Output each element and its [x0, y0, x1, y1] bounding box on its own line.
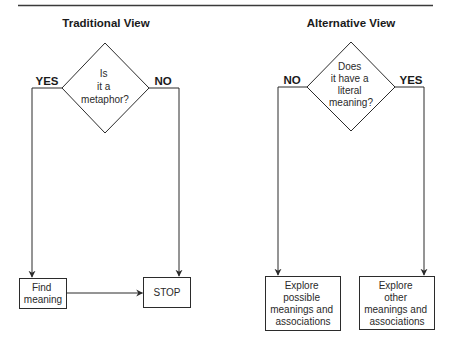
no-connector-arrow: [149, 88, 179, 276]
find-meaning-box: Find meaning: [20, 279, 67, 309]
panel-title: Alternative View: [307, 17, 396, 29]
branch-label-yes: YES: [399, 74, 422, 86]
explore-possible-box: Explore possible meanings and associatio…: [266, 277, 341, 331]
branch-label-no: NO: [283, 74, 300, 86]
decision-diamond: Is it a metaphor?: [62, 43, 149, 133]
branch-label-yes: YES: [35, 75, 58, 87]
stop-box: STOP: [144, 278, 191, 308]
explore-other-box: Explore other meanings and associations: [360, 277, 435, 330]
yes-connector-arrow: [32, 88, 62, 277]
panel-alternative-view: Alternative View Does it have a literal …: [266, 17, 435, 331]
yes-connector-arrow: [395, 87, 424, 275]
decision-diamond: Does it have a literal meaning?: [307, 42, 395, 131]
panel-title: Traditional View: [62, 17, 149, 29]
branch-label-no: NO: [154, 75, 171, 87]
no-connector-arrow: [278, 87, 307, 275]
panel-traditional-view: Traditional View Is it a metaphor? YES N…: [20, 17, 191, 309]
flowchart-diagram: Traditional View Is it a metaphor? YES N…: [0, 0, 449, 347]
stop-text: STOP: [153, 287, 180, 298]
